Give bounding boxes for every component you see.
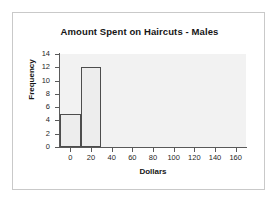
x-tick-mark: [132, 148, 133, 152]
x-tick-mark: [174, 148, 175, 152]
x-tick-mark: [236, 148, 237, 152]
chart-title: Amount Spent on Haircuts - Males: [13, 26, 266, 37]
x-tick-mark: [112, 148, 113, 152]
y-tick-mark: [55, 107, 59, 108]
y-tick-mark: [55, 120, 59, 121]
x-tick-label: 160: [221, 154, 251, 162]
x-tick-mark: [215, 148, 216, 152]
histogram-bar: [81, 67, 102, 147]
y-tick-label: 2: [28, 130, 50, 138]
y-tick-mark: [55, 147, 59, 148]
y-tick-mark: [55, 81, 59, 82]
chart-figure: Amount Spent on Haircuts - Males 0246810…: [12, 12, 265, 190]
x-axis-title: Dollars: [60, 167, 246, 176]
y-tick-label: 0: [28, 143, 50, 151]
x-tick-mark: [91, 148, 92, 152]
y-tick-mark: [55, 67, 59, 68]
x-tick-mark: [194, 148, 195, 152]
y-tick-mark: [55, 54, 59, 55]
y-tick-mark: [55, 134, 59, 135]
histogram-bar: [60, 114, 81, 147]
y-tick-mark: [55, 94, 59, 95]
x-tick-mark: [70, 148, 71, 152]
screenshot-root: Amount Spent on Haircuts - Males 0246810…: [0, 0, 279, 204]
x-tick-mark: [153, 148, 154, 152]
y-tick-label: 4: [28, 116, 50, 124]
y-axis-title: Frequency: [27, 50, 36, 110]
